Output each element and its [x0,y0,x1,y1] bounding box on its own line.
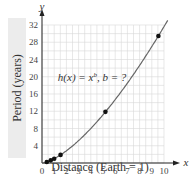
y-axis-name: y [39,0,45,12]
y-tick-label: 24 [29,55,39,65]
x-axis-arrow-icon [173,161,180,166]
x-tick-label: 0 [40,166,45,176]
y-tick-label: 28 [29,37,39,47]
x-tick-label: 3 [76,166,81,176]
x-tick-label: 7 [125,166,130,176]
x-axis-name: x [183,156,189,168]
data-point [58,153,63,158]
y-tick-label: 4 [34,141,39,151]
y-tick-label: 16 [29,89,39,99]
x-tick-label: 4 [89,166,94,176]
x-tick-label: 8 [137,166,142,176]
chart: xy01234567891048121620242832h(x) = xb, b… [0,0,192,177]
x-tick-label: 9 [150,166,155,176]
data-point [156,34,161,39]
x-tick-label: 2 [64,166,69,176]
y-tick-label: 8 [34,124,39,134]
x-tick-label: 6 [113,166,118,176]
y-tick-label: 20 [29,72,39,82]
y-tick-label: 12 [29,106,38,116]
fit-curve [42,20,168,163]
x-tick-label: 1 [52,166,57,176]
data-point [103,110,108,115]
data-point [52,156,57,161]
data-point [44,160,49,165]
x-tick-label: 5 [101,166,106,176]
formula-annotation: h(x) = xb, b = ? [58,71,127,84]
y-tick-label: 32 [29,20,38,30]
x-tick-label: 10 [160,166,170,176]
